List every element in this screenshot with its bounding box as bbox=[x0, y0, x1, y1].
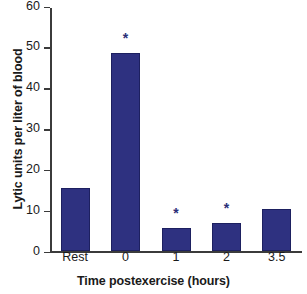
y-tick: 50 bbox=[44, 47, 50, 48]
y-tick-label: 40 bbox=[26, 80, 40, 95]
significance-marker: * bbox=[173, 208, 178, 218]
y-tick: 40 bbox=[44, 88, 50, 89]
x-axis-title: Time postexercise (hours) bbox=[0, 274, 307, 288]
y-tick-label: 50 bbox=[26, 39, 40, 54]
x-tick-label: Rest bbox=[62, 250, 88, 264]
x-tick-label: 3.5 bbox=[268, 250, 285, 264]
y-tick: 30 bbox=[44, 129, 50, 130]
y-tick: 60 bbox=[44, 7, 50, 8]
bar-chart: Lytic units per liter of blood 010203040… bbox=[0, 0, 307, 294]
bar bbox=[111, 53, 140, 251]
x-tick-label: 2 bbox=[223, 250, 230, 264]
y-axis-line bbox=[50, 8, 52, 253]
y-axis-title: Lytic units per liter of blood bbox=[11, 19, 25, 239]
x-tick-label: 0 bbox=[122, 250, 129, 264]
y-tick: 10 bbox=[44, 211, 50, 212]
y-tick-label: 20 bbox=[26, 162, 40, 177]
plot-area: 0102030405060 *** bbox=[50, 8, 302, 253]
y-tick: 0 bbox=[44, 252, 50, 253]
x-tick-label: 1 bbox=[173, 250, 180, 264]
y-tick-label: 10 bbox=[26, 203, 40, 218]
bar bbox=[61, 188, 90, 251]
significance-marker: * bbox=[123, 33, 128, 43]
y-tick: 20 bbox=[44, 170, 50, 171]
bar bbox=[262, 209, 291, 251]
y-tick-label: 60 bbox=[26, 0, 40, 14]
significance-marker: * bbox=[224, 203, 229, 213]
y-tick-label: 30 bbox=[26, 121, 40, 136]
y-tick-label: 0 bbox=[33, 244, 40, 259]
bar bbox=[162, 228, 191, 251]
bar bbox=[212, 223, 241, 251]
